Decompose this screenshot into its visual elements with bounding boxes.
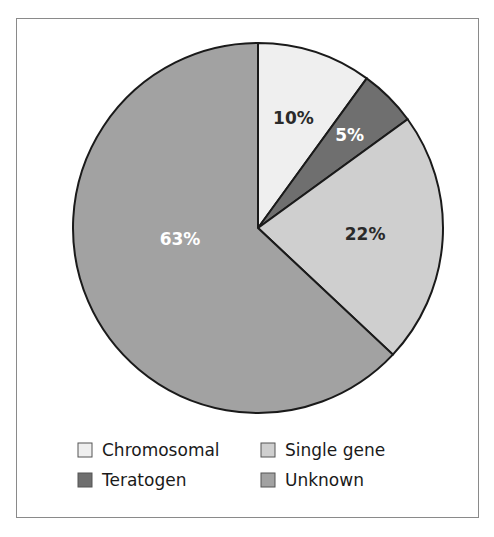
legend-swatch-single-gene — [261, 443, 275, 457]
legend-swatch-unknown — [261, 473, 275, 487]
pie-slices — [73, 43, 443, 413]
legend-swatch-teratogen — [78, 473, 92, 487]
pie-chart: 10%5%22%63% ChromosomalSingle geneTerato… — [0, 0, 494, 537]
legend-label-unknown: Unknown — [285, 470, 364, 490]
legend: ChromosomalSingle geneTeratogenUnknown — [78, 440, 385, 490]
legend-label-chromosomal: Chromosomal — [102, 440, 220, 460]
slice-label-teratogen: 5% — [335, 125, 364, 145]
legend-label-teratogen: Teratogen — [101, 470, 186, 490]
slice-label-single-gene: 22% — [345, 224, 386, 244]
legend-swatch-chromosomal — [78, 443, 92, 457]
slice-label-chromosomal: 10% — [273, 108, 314, 128]
slice-label-unknown: 63% — [160, 229, 201, 249]
legend-label-single-gene: Single gene — [285, 440, 385, 460]
